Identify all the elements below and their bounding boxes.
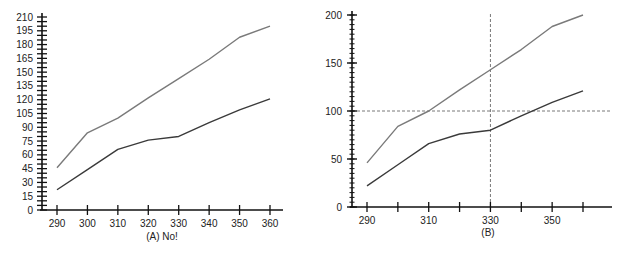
panel-caption: (B) bbox=[481, 227, 494, 238]
y-tick-label: 150 bbox=[325, 58, 342, 69]
figure: 0153045607590105120135150165180195210290… bbox=[0, 0, 627, 254]
x-tick-label: 330 bbox=[482, 215, 499, 226]
x-tick-label: 350 bbox=[544, 215, 561, 226]
series-line-lower bbox=[367, 91, 583, 186]
chart-panel-b: 050100150200290310330350(B) bbox=[0, 0, 627, 254]
y-tick-label: 50 bbox=[331, 154, 343, 165]
y-tick-label: 100 bbox=[325, 106, 342, 117]
x-tick-label: 290 bbox=[359, 215, 376, 226]
y-tick-label: 200 bbox=[325, 10, 342, 21]
y-tick-label: 0 bbox=[336, 202, 342, 213]
series-line-upper bbox=[367, 15, 583, 163]
x-tick-label: 310 bbox=[420, 215, 437, 226]
